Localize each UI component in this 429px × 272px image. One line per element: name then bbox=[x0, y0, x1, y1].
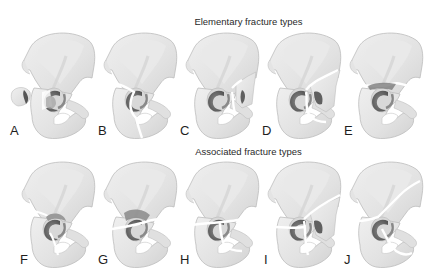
panel-d-anterior-column: D bbox=[254, 26, 346, 144]
panel-f-posterior-column-and-posterior-wall: F bbox=[8, 155, 100, 272]
panel-label-d: D bbox=[262, 124, 271, 137]
panel-label-h: H bbox=[180, 253, 189, 266]
panel-j-both-column: J bbox=[336, 155, 428, 272]
pelvis-illustration-a bbox=[8, 26, 100, 144]
panel-g-transverse-and-posterior-wall: G bbox=[90, 155, 182, 272]
panel-label-j: J bbox=[344, 253, 351, 266]
panel-label-g: G bbox=[98, 253, 108, 266]
panel-h-t-shaped: H bbox=[172, 155, 264, 272]
panel-e-transverse: E bbox=[336, 26, 428, 144]
panel-i-anterior-column-posterior-hemitransverse: I bbox=[254, 155, 346, 272]
panel-label-e: E bbox=[344, 124, 353, 137]
panel-c-anterior-wall: C bbox=[172, 26, 264, 144]
panel-label-b: B bbox=[98, 124, 107, 137]
panel-a-posterior-wall: A bbox=[8, 26, 100, 144]
pelvis-illustration-i bbox=[254, 155, 346, 272]
panel-label-f: F bbox=[20, 253, 28, 266]
panel-label-i: I bbox=[264, 253, 268, 266]
panel-label-c: C bbox=[180, 124, 189, 137]
panel-label-a: A bbox=[10, 124, 19, 137]
panel-b-posterior-column: B bbox=[90, 26, 182, 144]
